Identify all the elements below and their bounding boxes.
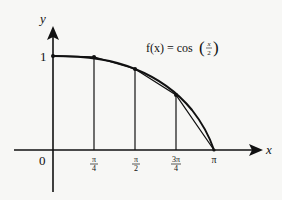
x-tick-numerator: π: [92, 155, 96, 164]
point-pi-2: [133, 67, 137, 71]
x-tick-3pi-4: 3π 4: [171, 155, 181, 173]
arc-length-diagram: y x 1 0 π 4 π 2 3π 4 π f(x) = cos ( x 2 …: [0, 0, 282, 200]
x-tick-denominator: 4: [174, 164, 178, 173]
origin-label: 0: [39, 153, 46, 168]
x-tick-pi: π: [211, 154, 216, 165]
y-axis-label: y: [38, 11, 46, 26]
point-pi: [212, 148, 215, 151]
function-label: f(x) = cos ( x 2 ): [146, 38, 219, 57]
point-pi-4: [92, 55, 96, 59]
point-0: [51, 54, 55, 58]
y-tick-1: 1: [40, 49, 47, 64]
right-paren: ): [213, 38, 219, 57]
x-tick-pi-2: π 2: [132, 155, 140, 173]
x-tick-denominator: 4: [92, 164, 96, 173]
x-tick-numerator: π: [134, 155, 138, 164]
fraction-denominator: 2: [207, 49, 211, 57]
x-axis-label: x: [265, 142, 272, 157]
x-tick-pi-4: π 4: [90, 155, 98, 173]
left-paren: (: [199, 38, 205, 57]
figure: y x 1 0 π 4 π 2 3π 4 π f(x) = cos ( x 2 …: [0, 0, 282, 200]
x-tick-denominator: 2: [134, 164, 138, 173]
fraction-numerator: x: [206, 40, 211, 48]
function-label-prefix: f(x) = cos: [146, 41, 193, 55]
x-tick-numerator: 3π: [172, 155, 180, 164]
point-3pi-4: [174, 93, 178, 97]
